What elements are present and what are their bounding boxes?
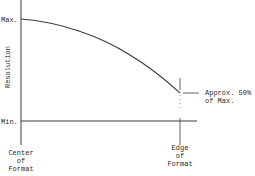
y-tick-min: Min. bbox=[1, 118, 18, 126]
resolution-curve bbox=[21, 19, 180, 93]
resolution-chart: Max. Min. Resolution Center of Format Ed… bbox=[0, 0, 255, 176]
x-tick-edge-line1: Edge bbox=[172, 144, 189, 152]
x-tick-edge-line3: Format bbox=[167, 160, 192, 168]
y-axis-label: Resolution bbox=[4, 46, 12, 88]
x-tick-center-line1: Center bbox=[8, 149, 33, 157]
x-tick-edge-line2: of bbox=[176, 152, 184, 160]
x-tick-center-line3: Format bbox=[8, 165, 33, 173]
y-tick-max: Max. bbox=[1, 16, 18, 24]
annotation-line1: Approx. 50% bbox=[205, 89, 252, 97]
annotation-line2: of Max. bbox=[205, 97, 234, 105]
x-tick-center-line2: of bbox=[17, 157, 25, 165]
